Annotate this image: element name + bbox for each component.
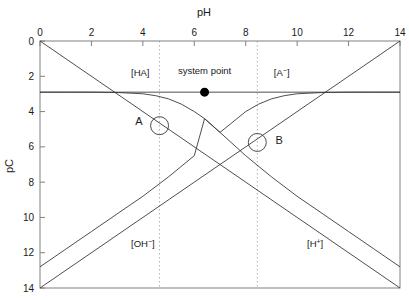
- x-axis-title: pH: [197, 6, 211, 18]
- y-tick-label: 2: [28, 71, 34, 82]
- chart-canvas: pH pC 02468101214 02468101214 [H+][OH−][…: [0, 0, 409, 300]
- curve-label-h: [H+]: [307, 238, 323, 250]
- y-tick-label: 4: [28, 106, 34, 117]
- pc-ph-diagram: pH pC 02468101214 02468101214 [H+][OH−][…: [0, 0, 409, 300]
- y-tick-label: 14: [23, 283, 35, 294]
- x-tick-label: 4: [140, 27, 146, 38]
- x-tick-label: 10: [292, 27, 304, 38]
- curve-label-oh: [OH−]: [131, 238, 155, 250]
- point-a-label: A: [135, 115, 143, 127]
- y-tick-label: 10: [23, 212, 35, 223]
- x-tick-label: 6: [192, 27, 198, 38]
- y-tick-label: 0: [28, 36, 34, 47]
- chart-background: [0, 0, 409, 300]
- system-point-label: system point: [178, 65, 232, 76]
- curve-label-a: [A−]: [274, 67, 290, 79]
- system-point-marker: [200, 88, 209, 97]
- y-axis-title: pC: [3, 159, 15, 173]
- x-tick-label: 2: [89, 27, 95, 38]
- x-tick-label: 14: [394, 27, 406, 38]
- y-tick-label: 8: [28, 177, 34, 188]
- y-tick-label: 12: [23, 247, 35, 258]
- x-tick-label: 8: [243, 27, 249, 38]
- curve-label-ha: [HA]: [131, 67, 149, 78]
- x-tick-label: 0: [37, 27, 43, 38]
- y-tick-label: 6: [28, 141, 34, 152]
- point-b-label: B: [275, 134, 282, 146]
- x-tick-label: 12: [343, 27, 355, 38]
